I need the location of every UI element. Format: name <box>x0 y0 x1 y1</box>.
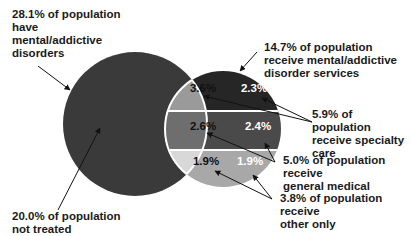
arrow-disorders <box>38 66 70 90</box>
label-other: 3.8% of population receive other only <box>280 192 411 231</box>
arrow-oth-out <box>253 175 272 199</box>
label-services: 14.7% of population receive mental/addic… <box>264 41 397 80</box>
value-spec-in: 3.6% <box>190 82 216 94</box>
value-oth-out: 1.9% <box>237 155 263 167</box>
value-spec-out: 2.3% <box>241 82 267 94</box>
label-not-treated: 20.0% of population not treated <box>12 210 121 236</box>
arrow-services <box>240 52 257 71</box>
value-gen-out: 2.4% <box>245 120 271 132</box>
label-disorders: 28.1% of population have mental/addictiv… <box>12 8 121 60</box>
value-gen-in: 2.6% <box>190 120 216 132</box>
value-oth-in: 1.9% <box>193 155 219 167</box>
label-specialty: 5.9% of population receive specialty car… <box>312 108 411 160</box>
label-general: 5.0% of population receive general medic… <box>283 154 411 193</box>
